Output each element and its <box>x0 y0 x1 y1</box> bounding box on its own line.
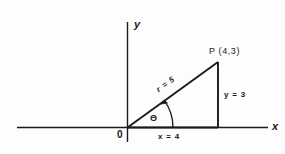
x-axis-label: x <box>272 121 278 132</box>
point-p-label: P (4,3) <box>209 47 240 56</box>
angle-arc <box>164 100 173 127</box>
horizontal-leg-label: x = 4 <box>158 133 180 141</box>
diagram-svg <box>0 0 285 154</box>
origin-label: 0 <box>117 130 123 140</box>
hypotenuse-line <box>128 62 219 128</box>
angle-theta-label: Θ <box>150 114 157 123</box>
diagram-canvas: y x 0 P (4,3) r = 5 y = 3 x = 4 Θ <box>0 0 285 154</box>
vertical-leg-label: y = 3 <box>224 91 246 99</box>
y-axis-label: y <box>134 19 140 30</box>
